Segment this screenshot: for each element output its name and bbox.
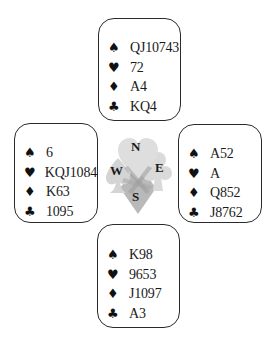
club-icon: ♣ bbox=[107, 304, 129, 324]
west-diamonds: K63 bbox=[46, 182, 70, 202]
hand-east: ♠ A52 ♥ A ♦ Q852 ♣ J8762 bbox=[178, 124, 262, 223]
diamond-icon: ♦ bbox=[188, 183, 210, 203]
heart-icon: ♥ bbox=[188, 164, 210, 184]
diamond-icon: ♦ bbox=[24, 182, 46, 202]
compass-south-label: S bbox=[132, 190, 139, 203]
east-clubs-row: ♣ J8762 bbox=[188, 203, 261, 223]
club-icon: ♣ bbox=[24, 202, 46, 222]
spade-icon: ♠ bbox=[24, 143, 46, 163]
compass-north-label: N bbox=[131, 140, 140, 153]
hand-north: ♠ QJ10743 ♥ 72 ♦ A4 ♣ KQ4 bbox=[98, 18, 181, 121]
west-spades: 6 bbox=[46, 143, 53, 163]
south-spades: K98 bbox=[129, 245, 153, 265]
spade-icon: ♠ bbox=[108, 38, 130, 58]
west-clubs: 1095 bbox=[46, 202, 73, 222]
west-hearts-row: ♥ KQJ1084 bbox=[24, 163, 97, 183]
east-hearts: A bbox=[210, 164, 220, 184]
diamond-icon: ♦ bbox=[108, 77, 130, 97]
south-hearts: 9653 bbox=[129, 265, 156, 285]
hand-south: ♠ K98 ♥ 9653 ♦ J1097 ♣ A3 bbox=[97, 224, 180, 328]
spade-icon: ♠ bbox=[188, 144, 210, 164]
south-clubs: A3 bbox=[129, 304, 146, 324]
spade-icon: ♠ bbox=[107, 245, 129, 265]
heart-icon: ♥ bbox=[107, 265, 129, 285]
diamond-icon: ♦ bbox=[107, 284, 129, 304]
south-hearts-row: ♥ 9653 bbox=[107, 265, 179, 285]
north-hearts: 72 bbox=[130, 58, 144, 78]
north-clubs-row: ♣ KQ4 bbox=[108, 97, 180, 117]
east-diamonds: Q852 bbox=[210, 183, 240, 203]
hand-west: ♠ 6 ♥ KQJ1084 ♦ K63 ♣ 1095 bbox=[14, 123, 98, 223]
compass-west-label: W bbox=[110, 164, 123, 177]
south-diamonds: J1097 bbox=[129, 284, 161, 304]
west-spades-row: ♠ 6 bbox=[24, 143, 97, 163]
east-spades: A52 bbox=[210, 144, 234, 164]
west-clubs-row: ♣ 1095 bbox=[24, 202, 97, 222]
north-clubs: KQ4 bbox=[130, 97, 157, 117]
east-hearts-row: ♥ A bbox=[188, 164, 261, 184]
east-spades-row: ♠ A52 bbox=[188, 144, 261, 164]
north-spades-row: ♠ QJ10743 bbox=[108, 38, 180, 58]
north-diamonds-row: ♦ A4 bbox=[108, 77, 180, 97]
heart-icon: ♥ bbox=[24, 163, 45, 183]
east-clubs: J8762 bbox=[210, 203, 242, 223]
club-icon: ♣ bbox=[108, 97, 130, 117]
north-diamonds: A4 bbox=[130, 77, 147, 97]
south-clubs-row: ♣ A3 bbox=[107, 304, 179, 324]
north-spades: QJ10743 bbox=[130, 38, 179, 58]
north-hearts-row: ♥ 72 bbox=[108, 58, 180, 78]
south-diamonds-row: ♦ J1097 bbox=[107, 284, 179, 304]
south-spades-row: ♠ K98 bbox=[107, 245, 179, 265]
club-icon: ♣ bbox=[188, 203, 210, 223]
compass-rose: N W E S bbox=[104, 128, 172, 216]
east-diamonds-row: ♦ Q852 bbox=[188, 183, 261, 203]
heart-icon: ♥ bbox=[108, 58, 130, 78]
west-hearts: KQJ1084 bbox=[45, 163, 97, 183]
west-diamonds-row: ♦ K63 bbox=[24, 182, 97, 202]
compass-east-label: E bbox=[155, 161, 164, 174]
